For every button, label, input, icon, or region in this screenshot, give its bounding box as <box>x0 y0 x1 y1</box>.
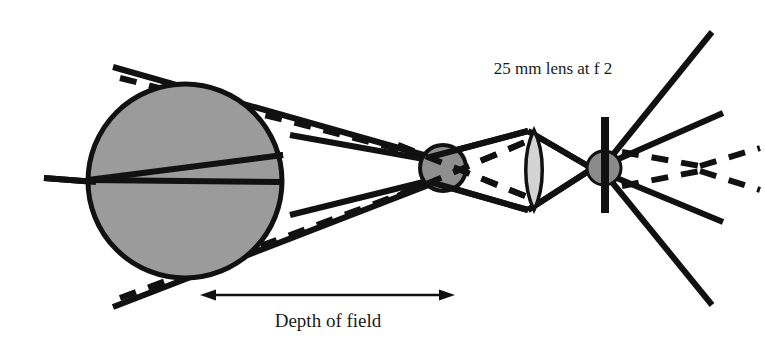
ray-axis-stub-left <box>44 178 96 182</box>
lens-spec-label: 25 mm lens at f 2 <box>494 59 613 78</box>
film-plane <box>601 117 609 213</box>
optics-diagram-canvas: 25 mm lens at f 2 Depth of field <box>0 0 765 346</box>
depth-of-field-label: Depth of field <box>275 310 382 331</box>
ray-axis-ray-lower-left <box>88 180 283 182</box>
camera-lens <box>526 130 543 210</box>
optics-ray-diagram: 25 mm lens at f 2 Depth of field <box>0 0 765 346</box>
